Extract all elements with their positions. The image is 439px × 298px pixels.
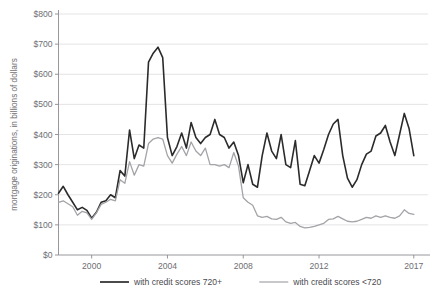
- series-line-0: [59, 47, 414, 218]
- line-chart: $0$100$200$300$400$500$600$700$800 20002…: [0, 0, 439, 298]
- chart-legend: with credit scores 720+with credit score…: [100, 277, 382, 287]
- y-tick-label: $600: [33, 69, 52, 79]
- chart-container: $0$100$200$300$400$500$600$700$800 20002…: [0, 0, 439, 298]
- y-axis-title: mortgage originations, in billions of do…: [10, 58, 19, 210]
- x-axis: 20002004200820122017: [59, 255, 431, 271]
- y-tick-label: $200: [33, 190, 52, 200]
- y-tick-label: $500: [33, 99, 52, 109]
- y-tick-label: $0: [43, 250, 53, 260]
- legend-label-1: with credit scores <720: [292, 277, 381, 287]
- y-axis: $0$100$200$300$400$500$600$700$800: [33, 9, 58, 260]
- x-tick-label: 2017: [404, 261, 423, 271]
- y-tick-label: $700: [33, 39, 52, 49]
- y-axis-label: mortgage originations, in billions of do…: [10, 58, 19, 210]
- gridlines: [59, 14, 429, 225]
- y-tick-label: $100: [33, 220, 52, 230]
- y-tick-label: $400: [33, 130, 52, 140]
- x-tick-label: 2000: [82, 261, 101, 271]
- x-tick-label: 2004: [158, 261, 177, 271]
- x-tick-label: 2008: [234, 261, 253, 271]
- x-tick-label: 2012: [309, 261, 328, 271]
- legend-label-0: with credit scores 720+: [133, 277, 222, 287]
- y-tick-label: $800: [33, 9, 52, 19]
- y-tick-label: $300: [33, 160, 52, 170]
